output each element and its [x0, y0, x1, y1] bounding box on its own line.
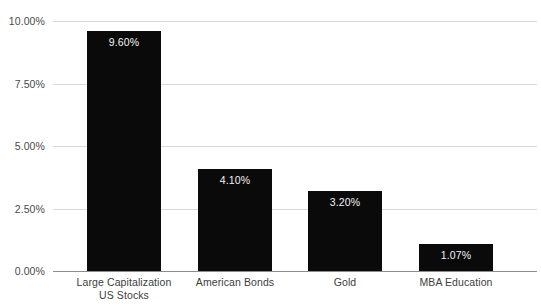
bar-large-cap-us-stocks[interactable]: 9.60% — [87, 31, 161, 271]
axis-baseline — [53, 271, 537, 272]
bar-american-bonds[interactable]: 4.10% — [198, 169, 272, 272]
bar-gold[interactable]: 3.20% — [308, 191, 382, 271]
bar-value-label: 4.10% — [198, 175, 272, 186]
category-label-mba-education: MBA Education — [381, 276, 531, 289]
y-tick-label-0: 0.00% — [0, 266, 45, 277]
y-tick-label-7_5: 7.50% — [0, 79, 45, 90]
y-tick-label-5: 5.00% — [0, 141, 45, 152]
bar-chart: 10.00% 7.50% 5.00% 2.50% 0.00% 9.60% 4.1… — [0, 0, 541, 308]
gridline-10 — [53, 21, 537, 22]
bar-value-label: 1.07% — [419, 250, 493, 261]
y-tick-label-10: 10.00% — [0, 16, 45, 27]
y-tick-label-2_5: 2.50% — [0, 204, 45, 215]
bar-mba-education[interactable]: 1.07% — [419, 244, 493, 271]
bar-value-label: 3.20% — [308, 197, 382, 208]
bar-value-label: 9.60% — [87, 37, 161, 48]
